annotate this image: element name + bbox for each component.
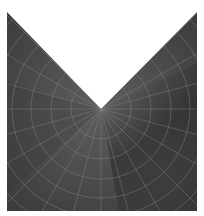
polar-grid-graphic bbox=[0, 0, 204, 216]
polar-figure bbox=[0, 0, 204, 216]
dark-notched-square bbox=[0, 0, 204, 216]
